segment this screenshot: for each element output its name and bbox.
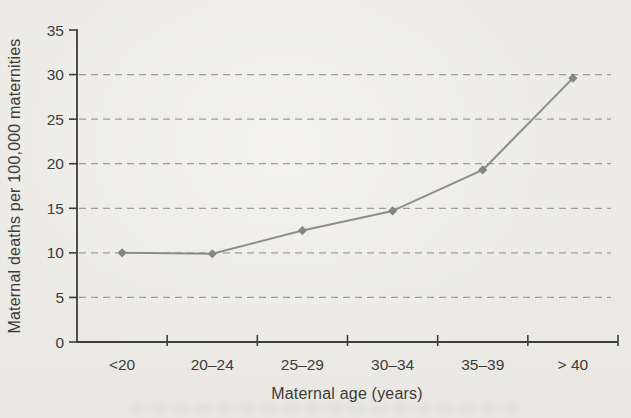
y-tick-label: 35 <box>47 22 64 39</box>
y-tick-label: 30 <box>47 66 65 83</box>
gridlines <box>79 75 611 298</box>
x-category-label: > 40 <box>558 356 589 373</box>
y-tick-label: 25 <box>47 111 64 128</box>
data-series-line <box>122 78 573 254</box>
data-point <box>117 248 126 257</box>
scanned-book-figure: 05101520253035 <2020–2425–2930–3435–39> … <box>0 0 631 418</box>
y-tick-label: 0 <box>55 334 64 351</box>
data-point-markers <box>117 74 577 259</box>
x-category-label: <20 <box>109 356 136 373</box>
data-point <box>298 226 307 235</box>
y-axis-label: Maternal deaths per 100,000 maternities <box>6 38 23 333</box>
y-tick-label: 5 <box>55 289 64 306</box>
x-axis-category-labels: <2020–2425–2930–3435–39> 40 <box>109 356 589 373</box>
x-category-label: 25–29 <box>281 356 324 373</box>
x-axis-ticks <box>167 335 618 346</box>
axes <box>76 30 618 342</box>
maternal-deaths-line <box>122 78 573 254</box>
y-axis-tick-labels: 05101520253035 <box>47 22 65 351</box>
x-category-label: 35–39 <box>461 356 504 373</box>
y-tick-label: 20 <box>47 155 65 172</box>
y-tick-label: 10 <box>47 244 65 261</box>
y-tick-label: 15 <box>47 200 64 217</box>
x-category-label: 20–24 <box>191 356 234 373</box>
data-point <box>208 249 217 258</box>
x-axis-label: Maternal age (years) <box>271 385 423 402</box>
maternal-mortality-line-chart: 05101520253035 <2020–2425–2930–3435–39> … <box>0 0 631 418</box>
x-category-label: 30–34 <box>371 356 414 373</box>
